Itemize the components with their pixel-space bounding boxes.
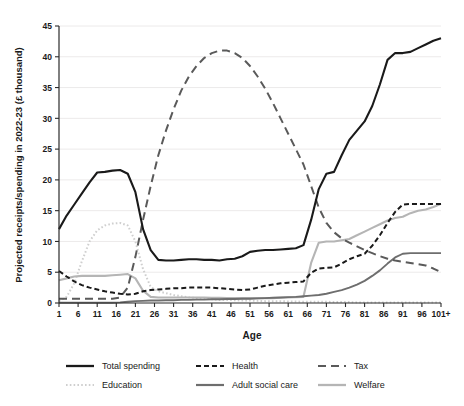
x-tick-label-4: 21 (131, 309, 141, 319)
legend-label: Tax (354, 361, 369, 371)
x-tick-label-5: 26 (150, 309, 160, 319)
y-tick-label-25: 25 (43, 144, 53, 154)
x-tick-label-19: 96 (417, 309, 427, 319)
y-tick-label-5: 5 (47, 267, 52, 277)
y-tick-label-40: 40 (43, 52, 53, 62)
y-tick-label-0: 0 (47, 298, 52, 308)
x-tick-label-1: 6 (76, 309, 81, 319)
x-tick-label-14: 71 (322, 309, 332, 319)
x-axis-title: Age (243, 330, 262, 341)
y-tick-label-15: 15 (43, 206, 53, 216)
x-tick-label-17: 86 (379, 309, 389, 319)
x-tick-label-16: 81 (360, 309, 370, 319)
y-tick-label-10: 10 (43, 237, 53, 247)
x-tick-label-11: 56 (264, 309, 274, 319)
legend-label: Adult social care (232, 380, 298, 390)
x-tick-label-13: 66 (303, 309, 313, 319)
line-chart: 051015202530354045 161116212631364146515… (0, 0, 464, 406)
x-tick-label-0: 1 (57, 309, 62, 319)
x-tick-label-20: 101+ (431, 309, 450, 319)
y-tick-label-35: 35 (43, 83, 53, 93)
y-tick-label-20: 20 (43, 175, 53, 185)
legend-label: Total spending (102, 361, 160, 371)
x-tick-label-18: 91 (398, 309, 408, 319)
y-tick-label-45: 45 (43, 21, 53, 31)
x-tick-label-15: 76 (341, 309, 351, 319)
x-tick-label-2: 11 (93, 309, 102, 319)
x-tick-label-9: 46 (226, 309, 236, 319)
x-tick-label-6: 31 (169, 309, 179, 319)
legend-label: Welfare (354, 380, 385, 390)
x-tick-label-8: 41 (207, 309, 217, 319)
legend-label: Health (232, 361, 258, 371)
x-tick-label-10: 51 (245, 309, 255, 319)
x-tick-label-12: 61 (283, 309, 293, 319)
y-tick-label-30: 30 (43, 114, 53, 124)
legend-label: Education (102, 380, 142, 390)
y-axis-title: Projected receipts/spending in 2022-23 (… (13, 47, 24, 282)
chart-background (0, 0, 464, 406)
x-tick-label-3: 16 (112, 309, 122, 319)
x-tick-label-7: 36 (188, 309, 198, 319)
chart-container: 051015202530354045 161116212631364146515… (0, 0, 464, 406)
